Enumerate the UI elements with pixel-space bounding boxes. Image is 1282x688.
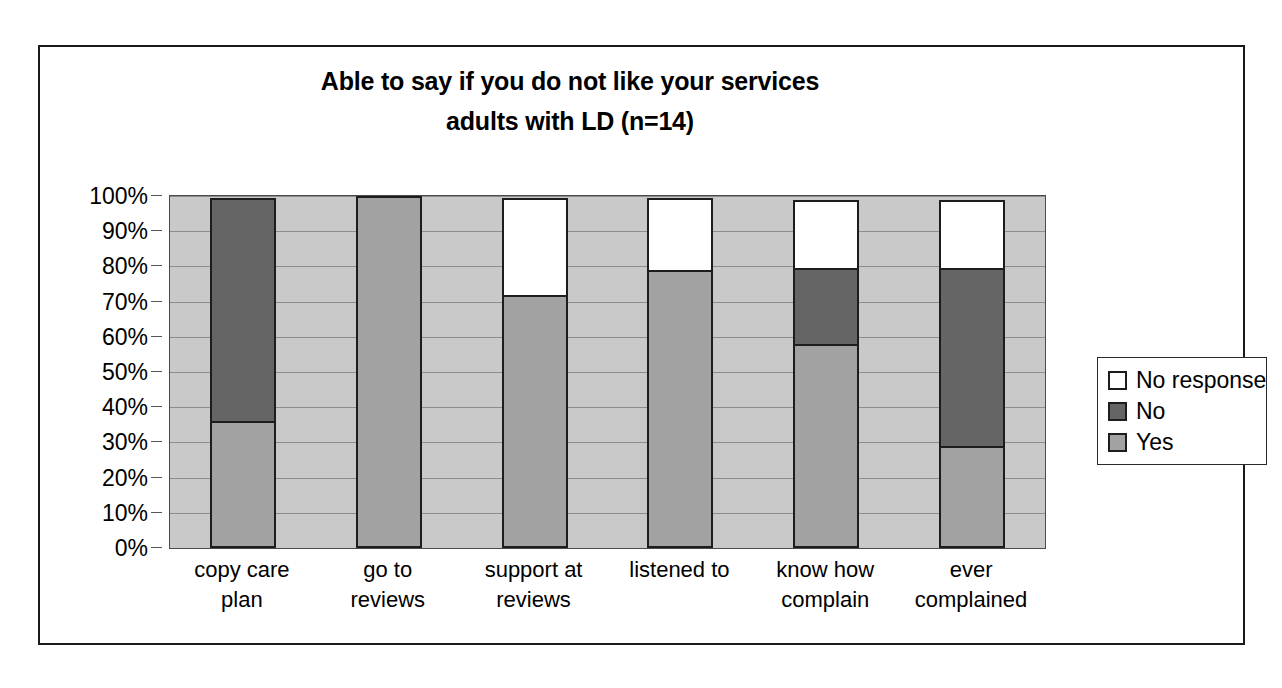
x-axis-label-line: copy care [169, 555, 315, 585]
y-axis-tick-label: 100% [89, 183, 148, 209]
bar-segment-yes[interactable] [647, 270, 713, 548]
stacked-bar[interactable] [502, 198, 568, 548]
chart-page: Able to say if you do not like your serv… [0, 0, 1282, 688]
y-axis-tick-label: 50% [102, 359, 148, 385]
stacked-bar[interactable] [793, 200, 859, 548]
bar-segment-yes[interactable] [939, 446, 1005, 548]
chart-legend: No response No Yes [1097, 357, 1267, 465]
bar-segment-no[interactable] [939, 268, 1005, 448]
y-axis-tick-mark [151, 512, 162, 513]
y-axis-tick-label: 60% [102, 324, 148, 350]
legend-item-no-response: No response [1108, 368, 1258, 392]
x-axis-label: support atreviews [461, 555, 607, 615]
y-axis-tick-label: 10% [102, 500, 148, 526]
stacked-bar[interactable] [356, 196, 422, 548]
x-axis-label: go toreviews [315, 555, 461, 615]
x-axis-label-line: complain [752, 585, 898, 615]
bar-segment-no-response[interactable] [939, 200, 1005, 270]
legend-label-no-response: No response [1136, 368, 1266, 392]
y-axis-tick-mark [151, 230, 162, 231]
legend-swatch-no-response [1108, 371, 1127, 390]
y-axis-tick-label: 80% [102, 253, 148, 279]
bar-segment-yes[interactable] [210, 421, 276, 548]
y-axis-tick-label: 30% [102, 429, 148, 455]
y-axis-tick-label: 70% [102, 289, 148, 315]
chart-title-line-2: adults with LD (n=14) [160, 101, 980, 141]
y-axis-tick-mark [151, 336, 162, 337]
bar-group [170, 196, 1045, 548]
x-axis-labels: copy careplango toreviewssupport atrevie… [169, 555, 1044, 635]
bar-slot [899, 196, 1045, 548]
y-axis-tick-mark [151, 265, 162, 266]
x-axis-label-line: complained [898, 585, 1044, 615]
bar-slot [170, 196, 316, 548]
legend-item-yes: Yes [1108, 430, 1258, 454]
x-axis-label-line: reviews [461, 585, 607, 615]
bar-slot [462, 196, 608, 548]
y-axis-tick-label: 40% [102, 394, 148, 420]
bar-segment-yes[interactable] [502, 295, 568, 548]
x-axis-label: copy careplan [169, 555, 315, 615]
bar-segment-no[interactable] [793, 268, 859, 345]
bar-segment-no[interactable] [210, 198, 276, 423]
bar-slot [608, 196, 754, 548]
y-axis-tick-mark [151, 547, 162, 548]
y-axis-tick-label: 90% [102, 218, 148, 244]
bar-segment-yes[interactable] [793, 344, 859, 548]
bar-slot [316, 196, 462, 548]
legend-label-yes: Yes [1136, 430, 1174, 454]
x-axis-label-line: know how [752, 555, 898, 585]
legend-swatch-no [1108, 402, 1127, 421]
chart-frame: Able to say if you do not like your serv… [38, 45, 1245, 645]
legend-swatch-yes [1108, 433, 1127, 452]
y-axis-tick-mark [151, 441, 162, 442]
plot-area: 100%90%80%70%60%50%40%30%20%10%0% [169, 195, 1046, 549]
stacked-bar[interactable] [939, 200, 1005, 548]
chart-title-line-1: Able to say if you do not like your serv… [160, 61, 980, 101]
x-axis-label-line: ever [898, 555, 1044, 585]
legend-item-no: No [1108, 399, 1258, 423]
x-axis-label-line: reviews [315, 585, 461, 615]
y-axis-tick-mark [151, 371, 162, 372]
stacked-bar[interactable] [647, 198, 713, 548]
x-axis-label-line: listened to [607, 555, 753, 585]
bar-segment-no-response[interactable] [647, 198, 713, 272]
chart-title: Able to say if you do not like your serv… [160, 61, 980, 141]
y-axis-tick-mark [151, 406, 162, 407]
y-axis-tick-label: 0% [115, 535, 148, 561]
bar-slot [753, 196, 899, 548]
legend-label-no: No [1136, 399, 1165, 423]
stacked-bar[interactable] [210, 198, 276, 548]
bar-segment-no-response[interactable] [502, 198, 568, 297]
bar-segment-yes[interactable] [356, 196, 422, 548]
x-axis-label: evercomplained [898, 555, 1044, 615]
x-axis-label-line: plan [169, 585, 315, 615]
x-axis-label: listened to [607, 555, 753, 585]
x-axis-label-line: go to [315, 555, 461, 585]
y-axis-tick-label: 20% [102, 465, 148, 491]
x-axis-label-line: support at [461, 555, 607, 585]
y-axis-tick-mark [151, 195, 162, 196]
x-axis-label: know howcomplain [752, 555, 898, 615]
bar-segment-no-response[interactable] [793, 200, 859, 270]
y-axis-tick-mark [151, 477, 162, 478]
y-axis-tick-mark [151, 301, 162, 302]
